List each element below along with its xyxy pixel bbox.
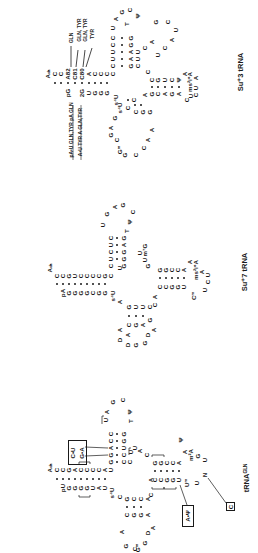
nucleotide: U	[103, 418, 109, 422]
nucleotide: G	[133, 343, 139, 348]
base-pair-dot	[92, 478, 94, 480]
nucleotide: U	[135, 57, 141, 61]
substitution-box: C	[226, 502, 235, 511]
base-pair-dot	[92, 283, 94, 285]
nucleotide: Ψ	[176, 77, 182, 82]
nucleotide: C	[162, 46, 168, 50]
mutation-annotation: GLN, TYR	[82, 18, 88, 41]
base-pair-dot	[74, 283, 76, 285]
nucleotide: G	[147, 110, 153, 115]
base-pair-dot	[116, 454, 118, 456]
base-pair-dot	[100, 82, 102, 84]
base-pair-dot	[135, 315, 137, 317]
nucleotide: A	[176, 92, 182, 96]
nucleotide: U	[181, 285, 187, 289]
nucleotide: C	[142, 46, 148, 50]
nucleotide: A	[108, 446, 114, 450]
nucleotide: C	[184, 98, 190, 102]
base-pair-dot	[60, 82, 62, 84]
base-pair-dot	[81, 82, 83, 84]
nucleotide: U	[108, 243, 114, 247]
nucleotide: Ψ	[135, 13, 141, 18]
nucleotide: A	[149, 128, 155, 132]
nucleotide: A	[152, 295, 158, 299]
nucleotide: C	[141, 146, 147, 150]
base-pair-dot	[121, 37, 123, 39]
base-pair-dot	[80, 478, 82, 480]
nucleotide: U	[188, 94, 194, 98]
nucleotide: C	[144, 453, 150, 457]
base-pair-dot	[154, 470, 156, 472]
nucleotide: C	[127, 8, 133, 12]
base-pair-dot	[151, 86, 153, 88]
box-text: C•U	[70, 447, 76, 458]
nucleotide: D	[145, 531, 151, 535]
nucleotide: G	[121, 439, 127, 444]
nucleotide: A	[150, 526, 156, 530]
nucleotide: U	[194, 481, 200, 485]
nucleotide: G	[142, 541, 148, 546]
base-pair-dot	[80, 283, 82, 285]
box-text: A•Ψ	[185, 510, 191, 522]
nucleotide: G	[145, 264, 151, 269]
nucleotide: G	[108, 460, 114, 465]
base-pair-dot	[88, 82, 90, 84]
nucleotide: A	[121, 243, 127, 247]
nucleotide: C	[165, 20, 171, 24]
base-pair-dot	[142, 315, 144, 317]
nucleotide: D	[145, 333, 151, 337]
nucleotide: U	[135, 50, 141, 54]
nucleotide: G	[140, 110, 146, 115]
base-pair-dot	[140, 506, 142, 508]
nucleotide: A	[151, 328, 157, 332]
nucleotide: G	[119, 10, 125, 15]
box-text: C	[227, 504, 233, 508]
base-pair-dot	[54, 82, 56, 84]
nucleotide: C	[114, 138, 120, 142]
nucleotide: pG	[65, 89, 71, 98]
nucleotide: G	[128, 36, 134, 41]
structure-label: tRNAᴳᴸᴺ	[242, 464, 251, 493]
nucleotide: Ψ	[127, 219, 133, 224]
nucleotide: C	[108, 250, 114, 254]
nucleotide: T	[128, 419, 134, 423]
nucleotide: A	[119, 530, 125, 534]
base-pair-dot	[177, 277, 179, 279]
base-pair-dot	[104, 478, 106, 480]
base-pair-dot	[157, 86, 159, 88]
nucleotide: A	[117, 300, 123, 304]
base-pair-dot	[116, 433, 118, 435]
nucleotide: U	[205, 273, 211, 277]
nucleotide: D	[125, 343, 131, 347]
nucleotide: G	[104, 212, 110, 217]
nucleotide: G	[128, 43, 134, 48]
nucleotide: G	[121, 236, 127, 241]
nucleotide: m⁷G	[142, 244, 148, 257]
nucleotide: C	[108, 439, 114, 443]
trna-cloverleaf-figure: AₒₕCCA82C81C80ACCCpG2GUGGGCCUUCCUAGCTΨGG…	[0, 0, 258, 553]
nucleotide: C	[110, 64, 116, 68]
nucleotide: C	[145, 70, 151, 74]
nucleotide: A	[176, 461, 182, 465]
nucleotide: A	[145, 513, 151, 517]
nucleotide: C	[110, 43, 116, 47]
base-pair-dot	[98, 283, 100, 285]
nucleotide: C	[110, 36, 116, 40]
nucleotide: G	[147, 318, 153, 323]
nucleotide: U	[110, 50, 116, 54]
nucleotide: U	[117, 266, 123, 270]
mutation-annotation: A•U TYR A GLN,TYR	[77, 108, 83, 156]
base-pair-dot	[62, 283, 64, 285]
substitution-box: C•UG•A	[68, 440, 87, 465]
nucleotide: D	[117, 338, 123, 342]
mutation-annotation: pA•U GLN,TYR pA GLN	[68, 102, 74, 157]
nucleotide: U	[110, 26, 116, 30]
nucleotide: U	[193, 86, 199, 90]
nucleotide: G	[121, 432, 127, 437]
nucleotide: C	[152, 303, 158, 307]
base-pair-dot	[116, 237, 118, 239]
nucleotide: A	[142, 93, 148, 97]
nucleotide: G	[120, 203, 126, 208]
base-pair-dot	[165, 277, 167, 279]
nucleotide: C	[133, 110, 139, 114]
